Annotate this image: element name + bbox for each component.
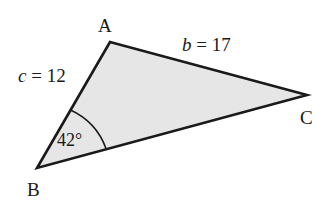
- side-b-value: = 17: [192, 34, 231, 55]
- vertex-label-c: C: [300, 107, 313, 128]
- side-b-variable: b: [182, 34, 192, 55]
- side-label-b: b = 17: [182, 34, 231, 55]
- vertex-label-b: B: [27, 179, 40, 200]
- triangle-diagram: A B C c = 12 b = 17 42°: [0, 0, 334, 212]
- side-c-value: = 12: [26, 65, 65, 86]
- vertex-label-a: A: [98, 15, 112, 36]
- triangle-svg: A B C c = 12 b = 17 42°: [0, 0, 334, 212]
- angle-b-label: 42°: [57, 130, 82, 150]
- side-label-c: c = 12: [18, 65, 66, 86]
